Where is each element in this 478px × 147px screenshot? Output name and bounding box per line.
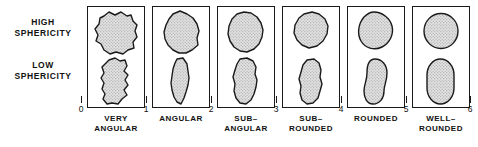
grain-rounded-high-sphericity — [348, 10, 404, 57]
panel-box-very-angular — [87, 6, 145, 108]
row-label-low-line1: LOW — [0, 60, 86, 71]
panel-box-sub-angular — [217, 6, 275, 108]
grain-angular-low-sphericity — [153, 57, 209, 107]
panel-caption-very-angular: VERY ANGULAR — [83, 114, 149, 134]
panel-box-well-rounded — [412, 6, 470, 108]
scale-tick-1: 1 — [140, 96, 152, 115]
panel-caption-well-rounded-line2: ROUNDED — [408, 124, 474, 134]
grain-well-rounded-high-sphericity — [413, 10, 469, 57]
panel-caption-very-angular-line2: ANGULAR — [83, 124, 149, 134]
panel-caption-very-angular-line1: VERY — [83, 114, 149, 124]
scale-tick-label-4: 4 — [335, 104, 347, 115]
tick-mark-icon — [81, 96, 82, 103]
grain-sub-angular-high-sphericity — [218, 10, 274, 57]
class-panels: VERY ANGULAR ANGULAR — [87, 6, 475, 144]
panel-caption-angular: ANGULAR — [148, 114, 214, 124]
panel-caption-rounded-line1: ROUNDED — [343, 114, 409, 124]
scale-tick-2: 2 — [205, 96, 217, 115]
panel-caption-sub-rounded-line1: SUB– — [278, 114, 344, 124]
panel-box-sub-rounded — [282, 6, 340, 108]
panel-caption-sub-angular-line1: SUB– — [213, 114, 279, 124]
tick-mark-icon — [146, 96, 147, 103]
row-label-high-line1: HIGH — [0, 17, 86, 28]
row-label-high-sphericity: HIGH SPHERICITY — [0, 17, 86, 38]
panel-sub-angular: SUB– ANGULAR — [217, 6, 275, 108]
roundness-sphericity-chart: HIGH SPHERICITY LOW SPHERICITY VERY ANGU… — [0, 0, 478, 147]
grain-well-rounded-low-sphericity — [413, 57, 469, 107]
panel-well-rounded: WELL– ROUNDED — [412, 6, 470, 108]
scale-tick-label-2: 2 — [205, 104, 217, 115]
panel-caption-sub-rounded-line2: ROUNDED — [278, 124, 344, 134]
tick-mark-icon — [276, 96, 277, 103]
tick-mark-icon — [211, 96, 212, 103]
scale-tick-label-1: 1 — [140, 104, 152, 115]
panel-sub-rounded: SUB– ROUNDED — [282, 6, 340, 108]
panel-caption-rounded: ROUNDED — [343, 114, 409, 124]
panel-caption-well-rounded: WELL– ROUNDED — [408, 114, 474, 134]
grain-sub-rounded-high-sphericity — [283, 10, 339, 57]
scale-tick-6: 6 — [464, 96, 476, 115]
scale-tick-4: 4 — [335, 96, 347, 115]
scale-tick-0: 0 — [75, 96, 87, 115]
scale-tick-3: 3 — [270, 96, 282, 115]
panel-caption-sub-rounded: SUB– ROUNDED — [278, 114, 344, 134]
panel-caption-sub-angular: SUB– ANGULAR — [213, 114, 279, 134]
scale-tick-label-6: 6 — [464, 104, 476, 115]
panel-caption-well-rounded-line1: WELL– — [408, 114, 474, 124]
panel-rounded: ROUNDED — [347, 6, 405, 108]
grain-angular-high-sphericity — [153, 10, 209, 57]
panel-angular: ANGULAR — [152, 6, 210, 108]
grain-very-angular-high-sphericity — [88, 10, 144, 57]
grain-rounded-low-sphericity — [348, 57, 404, 107]
sphericity-row-labels: HIGH SPHERICITY LOW SPHERICITY — [0, 0, 86, 110]
grain-very-angular-low-sphericity — [88, 57, 144, 107]
panel-caption-sub-angular-line2: ANGULAR — [213, 124, 279, 134]
panel-box-angular — [152, 6, 210, 108]
row-label-high-line2: SPHERICITY — [0, 28, 86, 39]
scale-tick-label-0: 0 — [75, 104, 87, 115]
scale-tick-5: 5 — [400, 96, 412, 115]
row-label-low-sphericity: LOW SPHERICITY — [0, 60, 86, 81]
tick-mark-icon — [341, 96, 342, 103]
panel-very-angular: VERY ANGULAR — [87, 6, 145, 108]
scale-tick-label-3: 3 — [270, 104, 282, 115]
grain-sub-rounded-low-sphericity — [283, 57, 339, 107]
row-label-low-line2: SPHERICITY — [0, 71, 86, 82]
scale-tick-label-5: 5 — [400, 104, 412, 115]
tick-mark-icon — [406, 96, 407, 103]
grain-sub-angular-low-sphericity — [218, 57, 274, 107]
panel-box-rounded — [347, 6, 405, 108]
tick-mark-icon — [470, 96, 471, 103]
panel-caption-angular-line1: ANGULAR — [148, 114, 214, 124]
